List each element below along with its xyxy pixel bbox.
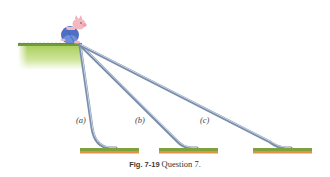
cliff-platform <box>18 43 82 70</box>
caption-text: Question 7. <box>162 159 201 169</box>
slides-diagram <box>0 0 330 177</box>
figure-caption: Fig. 7-19 Question 7. <box>0 159 330 169</box>
slide-label-b: (b) <box>135 115 145 125</box>
slide-c <box>80 44 291 148</box>
figure-question-7: (a) (b) (c) Fig. 7-19 Question 7. <box>0 0 330 177</box>
ground-strip-a <box>80 148 139 154</box>
slide-label-c: (c) <box>200 115 209 125</box>
slide-label-a: (a) <box>76 115 86 125</box>
ground-strip-c <box>253 148 312 154</box>
caption-label: Fig. 7-19 <box>129 160 159 169</box>
ground-strip-b <box>159 148 218 154</box>
pig-character-icon <box>61 15 87 44</box>
